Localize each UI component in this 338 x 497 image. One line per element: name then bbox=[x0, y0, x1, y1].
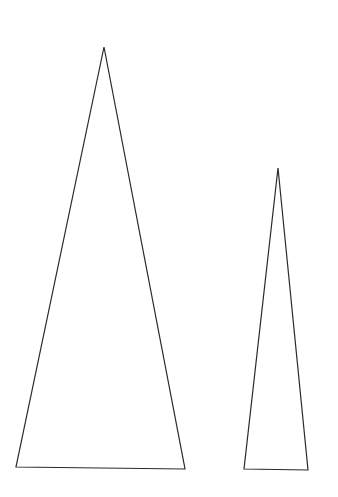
diagram-canvas bbox=[0, 0, 338, 497]
small-triangle bbox=[244, 168, 308, 470]
large-triangle bbox=[16, 47, 185, 469]
